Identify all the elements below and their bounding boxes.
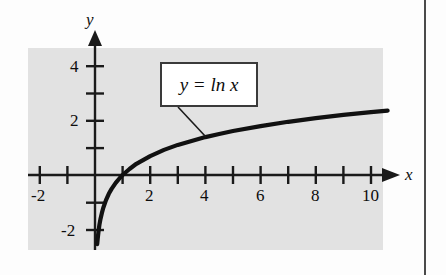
x-axis-label: x — [405, 165, 413, 185]
y-tick-label-2: 2 — [70, 111, 79, 131]
y-axis-label: y — [86, 10, 94, 30]
x-axis-arrowhead — [382, 168, 400, 182]
equation-annotation-box: y = ln x — [160, 62, 258, 107]
annotation-leader-line — [178, 107, 206, 137]
figure-container: -2 2 4 6 8 10 4 2 -2 x y y = ln x — [0, 0, 446, 275]
y-tick-label-4: 4 — [70, 57, 79, 77]
x-tick-label--2: -2 — [31, 186, 45, 206]
x-tick-label-6: 6 — [256, 186, 265, 206]
x-tick-label-4: 4 — [200, 186, 209, 206]
y-tick-label--2: -2 — [61, 221, 75, 241]
equation-annotation-text: y = ln x — [180, 74, 239, 96]
x-tick-label-2: 2 — [145, 186, 154, 206]
x-tick-label-8: 8 — [311, 186, 320, 206]
x-tick-label-10: 10 — [362, 186, 379, 206]
y-axis-arrowhead — [88, 30, 102, 46]
page-border-rule — [424, 0, 426, 275]
